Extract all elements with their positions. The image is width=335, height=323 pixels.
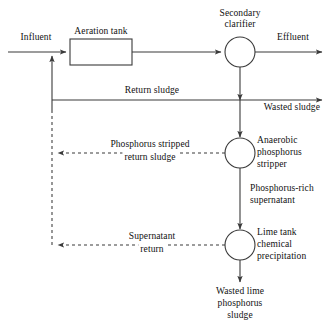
node-secondary-clarifier-shape: [225, 37, 255, 67]
label-effluent: Effluent: [277, 32, 309, 43]
label-wasted-sludge: Wasted sludge: [264, 102, 320, 113]
label-lime-tank-line1: Lime tank: [257, 227, 297, 238]
label-aeration-tank: Aeration tank: [74, 26, 127, 37]
node-anaerobic-phosphorus-stripper-shape: [225, 138, 255, 168]
label-anaerobic-stripper-line1: Anaerobic: [257, 135, 297, 146]
label-anaerobic-stripper-line3: stripper: [257, 159, 287, 170]
label-phosphorus-stripped-return-sludge-line1: Phosphorus stripped: [108, 139, 191, 150]
process-flow-diagram: Influent Aeration tank Secondary clarifi…: [0, 0, 335, 323]
label-secondary-clarifier-line2: clarifier: [225, 19, 256, 30]
label-lime-tank-line3: precipitation: [257, 251, 306, 262]
label-anaerobic-stripper-line2: phosphorus: [257, 147, 302, 158]
label-influent: Influent: [21, 32, 52, 43]
label-phosphorus-rich-supernatant-line1: Phosphorus-rich: [250, 183, 314, 194]
node-aeration-tank-shape: [70, 39, 132, 65]
label-supernatant-return-line1: Supernatant: [127, 231, 177, 242]
label-lime-tank-line2: chemical: [257, 239, 292, 250]
label-phosphorus-stripped-return-sludge-line2: return sludge: [122, 152, 177, 163]
label-secondary-clarifier-line1: Secondary: [220, 8, 261, 19]
label-wasted-lime-sludge-line2: phosphorus: [218, 298, 263, 309]
label-wasted-lime-sludge-line3: sludge: [227, 310, 252, 321]
node-lime-tank-shape: [225, 230, 255, 260]
label-return-sludge: Return sludge: [123, 85, 181, 96]
label-phosphorus-rich-supernatant-line2: supernatant: [250, 195, 295, 206]
label-supernatant-return-line2: return: [138, 244, 165, 255]
label-wasted-lime-sludge-line1: Wasted lime: [216, 286, 264, 297]
